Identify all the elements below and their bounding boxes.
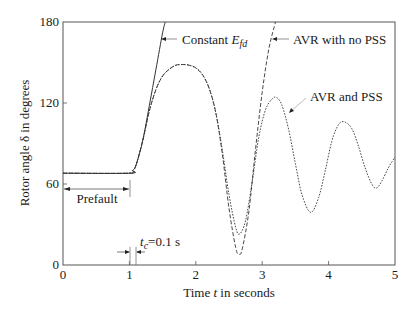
curve-constant-e-fd (63, 22, 165, 173)
y-tick-label: 60 (46, 176, 59, 191)
y-axis-label: Rotor angle δ in degrees (17, 80, 32, 207)
x-tick-label: 1 (126, 267, 133, 282)
arrowhead-icon (272, 37, 277, 41)
arrowhead-right-icon (125, 250, 130, 254)
label-constant-efd: Constant Efd (182, 32, 248, 49)
arrowhead-left-icon (64, 187, 70, 191)
label-avr-and-pss: AVR and PSS (310, 89, 383, 104)
y-tick-label: 120 (40, 95, 60, 110)
rotor-angle-chart: 012345 060120180 Time t in seconds Rotor… (0, 0, 415, 314)
x-tick-label: 0 (60, 267, 67, 282)
arrowhead-right-icon (123, 187, 129, 191)
x-tick-label: 2 (193, 267, 200, 282)
annotation-avr-and-pss: AVR and PSS (289, 89, 383, 113)
curves (63, 22, 395, 255)
label-clearing-time: tc=0.1 s (140, 234, 180, 251)
annotation-avr-no-pss: AVR with no PSS (272, 32, 386, 47)
x-tick-label: 4 (325, 267, 332, 282)
x-tick-label: 5 (392, 267, 399, 282)
y-tick-label: 180 (40, 14, 60, 29)
arrowhead-left-icon (136, 250, 141, 254)
annotation-prefault: Prefault (64, 180, 130, 206)
x-axis-ticks: 012345 (60, 261, 399, 282)
label-avr-no-pss: AVR with no PSS (293, 32, 386, 47)
annotation-clearing-time: tc=0.1 s (117, 234, 180, 265)
x-axis-label: Time t in seconds (183, 285, 275, 300)
y-tick-label: 0 (53, 257, 60, 272)
curve-avr-with-no-pss (63, 22, 275, 255)
x-tick-label: 3 (259, 267, 266, 282)
plot-frame (63, 22, 395, 265)
label-prefault: Prefault (76, 191, 118, 206)
annotation-constant-efd: Constant Efd (161, 32, 248, 49)
